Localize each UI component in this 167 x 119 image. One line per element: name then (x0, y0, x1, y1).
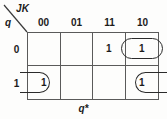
kmap-cell-q0-jk01 (61, 33, 94, 66)
column-header-row: 00 01 11 10 (27, 15, 159, 30)
cell-value: 1 (139, 78, 145, 88)
cell-value: 1 (139, 44, 145, 54)
cell-value: 1 (41, 78, 47, 88)
row-header-0: 0 (8, 32, 25, 66)
kmap-cell-q1-jk11 (93, 66, 126, 99)
kmap-cell-q1-jk01 (61, 66, 94, 99)
karnaugh-map-figure: JK q 00 01 11 10 0 1 1 1 1 1 (0, 0, 167, 119)
column-header-11: 11 (93, 15, 126, 30)
column-variable-label: JK (16, 3, 29, 14)
column-header-01: 01 (60, 15, 93, 30)
cell-value: 1 (106, 44, 112, 54)
row-variable-label: q (5, 17, 11, 28)
kmap-cell-q0-jk00 (28, 33, 61, 66)
column-header-10: 10 (126, 15, 159, 30)
figure-caption: q* (0, 103, 167, 114)
column-header-00: 00 (27, 15, 60, 30)
